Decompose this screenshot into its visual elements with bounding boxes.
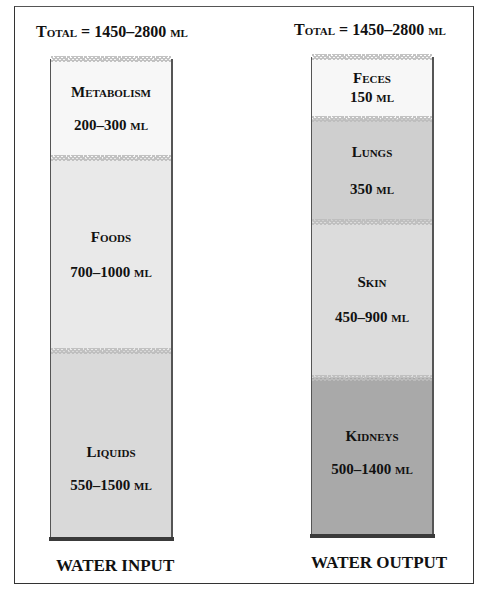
segment-feces: Feces 150 ml [312,57,432,119]
column-base [49,537,174,541]
wave-divider [51,56,171,62]
segment-amount: 450–900 ml [335,309,409,326]
segment-metabolism: Metabolism 200–300 ml [51,59,171,158]
wave-divider [312,116,432,122]
segment-kidneys: Kidneys 500–1400 ml [312,378,432,534]
segment-amount: 500–1400 ml [331,461,412,478]
segment-amount: 150 ml [350,89,394,106]
segment-name: Skin [357,274,386,291]
water-input-column: Metabolism 200–300 ml Foods 700–1000 ml … [50,59,173,537]
segment-liquids: Liquids 550–1500 ml [51,351,171,537]
segment-name: Liquids [86,444,135,461]
segment-name: Feces [353,70,391,87]
input-total-prefix: Total [36,23,77,40]
output-total-unit: ml [428,21,446,38]
segment-amount: 350 ml [350,181,394,198]
segment-foods: Foods 700–1000 ml [51,158,171,351]
segment-lungs: Lungs 350 ml [312,119,432,222]
output-total-prefix: Total [294,21,335,38]
input-total-unit: ml [170,23,188,40]
segment-amount: 200–300 ml [74,117,148,134]
wave-divider [51,348,171,354]
segment-name: Kidneys [345,428,398,445]
water-input-caption: WATER INPUT [56,556,174,576]
segment-name: Foods [91,229,131,246]
water-output-caption: WATER OUTPUT [311,553,447,573]
input-total-value: = 1450–2800 [77,23,170,40]
column-base [310,534,435,538]
wave-divider [51,155,171,161]
wave-divider [312,54,432,60]
output-total-value: = 1450–2800 [335,21,428,38]
wave-divider [312,219,432,225]
segment-amount: 700–1000 ml [70,264,151,281]
output-total-label: Total = 1450–2800 ml [294,21,446,39]
segment-amount: 550–1500 ml [70,477,151,494]
segment-skin: Skin 450–900 ml [312,222,432,378]
segment-name: Metabolism [71,84,151,101]
input-total-label: Total = 1450–2800 ml [36,23,188,41]
segment-name: Lungs [352,144,393,161]
water-output-column: Feces 150 ml Lungs 350 ml Skin 450–900 m… [311,57,434,534]
wave-divider [312,375,432,381]
